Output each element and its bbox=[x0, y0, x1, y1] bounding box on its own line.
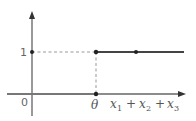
svg-text:+: + bbox=[126, 97, 136, 111]
svg-text:x: x bbox=[110, 97, 117, 111]
y-tick-dot bbox=[30, 50, 34, 54]
step-start-dot bbox=[94, 50, 98, 54]
svg-text:2: 2 bbox=[146, 104, 151, 113]
svg-text:x: x bbox=[139, 97, 146, 111]
svg-text:1: 1 bbox=[117, 104, 122, 113]
step-function-diagram: 1 0 θ x 1 + x 2 + x 3 bbox=[0, 0, 196, 121]
svg-text:x: x bbox=[167, 97, 174, 111]
y-axis-arrow-icon bbox=[29, 11, 35, 19]
origin-label: 0 bbox=[21, 96, 28, 109]
x-axis-label: x 1 + x 2 + x 3 bbox=[110, 97, 179, 113]
theta-label: θ bbox=[91, 98, 99, 112]
y-tick-label: 1 bbox=[20, 46, 27, 59]
step-mid-dot bbox=[134, 50, 138, 54]
x-axis-arrow-icon bbox=[178, 91, 186, 97]
svg-text:+: + bbox=[155, 97, 165, 111]
theta-dot bbox=[94, 92, 98, 96]
svg-text:3: 3 bbox=[174, 104, 179, 113]
